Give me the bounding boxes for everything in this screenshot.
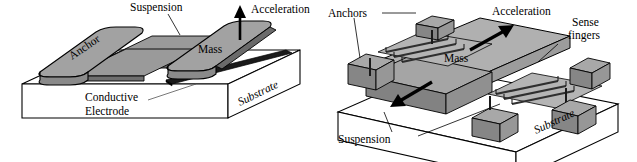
label-acceleration: Acceleration: [492, 5, 551, 17]
label-suspension: Suspension: [130, 1, 183, 14]
label-sense-fingers-line1: Sense: [572, 16, 599, 28]
panel-comb-finger: Anchors Acceleration Sense fingers Mass …: [320, 0, 637, 162]
label-sense-fingers-line2: fingers: [568, 29, 600, 42]
label-mass: Mass: [444, 52, 469, 64]
comb-finger-drawing: Anchors Acceleration Sense fingers Mass …: [320, 0, 637, 162]
label-conductive-electrode-line2: Electrode: [85, 105, 129, 117]
parallel-plate-drawing: Suspension Acceleration Anchor Mass Subs…: [0, 0, 320, 162]
label-acceleration: Acceleration: [251, 3, 310, 15]
anchor-cube-far-right: [570, 58, 610, 89]
figure-root: Suspension Acceleration Anchor Mass Subs…: [0, 0, 637, 162]
label-mass: Mass: [198, 43, 223, 55]
label-anchors: Anchors: [328, 7, 367, 19]
label-conductive-electrode-line1: Conductive: [85, 91, 138, 103]
panel-parallel-plate: Suspension Acceleration Anchor Mass Subs…: [0, 0, 320, 162]
label-suspension: Suspension: [338, 133, 391, 146]
